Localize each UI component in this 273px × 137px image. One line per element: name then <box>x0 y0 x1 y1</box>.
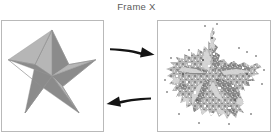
arrows-svg <box>104 20 157 132</box>
forward-arrow <box>110 47 155 57</box>
original-star-panel[interactable] <box>1 20 104 132</box>
page-title: Frame X <box>0 1 273 13</box>
backward-arrow <box>107 96 152 106</box>
figure-canvas: Frame X <box>0 0 273 137</box>
arrow-layer <box>104 20 157 132</box>
original-star-image <box>2 21 103 131</box>
degraded-star-image <box>158 21 270 131</box>
degraded-star-panel[interactable] <box>157 20 271 132</box>
noisy-star-body <box>158 21 270 131</box>
star-facets <box>8 30 95 113</box>
